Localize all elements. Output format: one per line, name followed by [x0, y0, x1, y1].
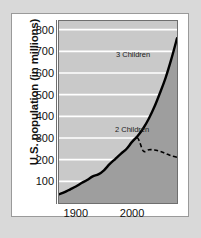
y-tick-label: 700 [24, 45, 54, 57]
population-projection-chart: U.S. population (in millions) 1002003004… [12, 14, 190, 218]
area-fill-3-children [59, 38, 177, 203]
y-tick-label: 400 [24, 110, 54, 122]
annotation-3-children: 3 Children [116, 50, 150, 59]
annotation-2-children: 2 Children [115, 125, 149, 134]
y-tick-label: 800 [24, 24, 54, 36]
y-tick-label: 300 [24, 132, 54, 144]
y-axis-tick-labels: 100200300400500600700800 [24, 20, 54, 204]
y-tick-label: 500 [24, 89, 54, 101]
y-tick-label: 600 [24, 67, 54, 79]
y-axis-line [56, 20, 57, 204]
x-axis-tick-labels: 19002000 [58, 204, 178, 220]
plot-svg [59, 21, 177, 203]
plot-area: 3 Children 2 Children [58, 20, 178, 204]
x-tick-label: 1900 [64, 207, 88, 219]
y-tick-label: 200 [24, 154, 54, 166]
x-tick-label: 2000 [120, 207, 144, 219]
figure-frame: U.S. population (in millions) 1002003004… [11, 13, 189, 217]
y-tick-label: 100 [24, 175, 54, 187]
